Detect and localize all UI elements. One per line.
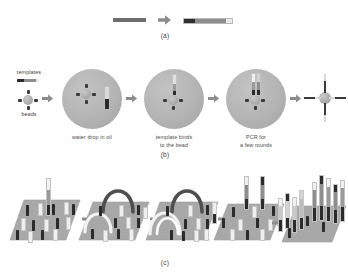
templates-legend-icon	[17, 79, 39, 82]
amplified-strand-b-icon	[256, 73, 261, 96]
tall-strand-light-icon	[260, 176, 265, 210]
panel-b-arrow-4-icon	[290, 93, 302, 104]
templates-label: templates	[3, 69, 55, 75]
caption-water-drop-in-oil: water drop in oil	[52, 134, 132, 142]
caption-pcr-rounds: PCR for a few rounds	[216, 134, 296, 150]
bead-in-droplet	[76, 84, 96, 104]
figure-root: (a) templates beads	[0, 0, 348, 279]
panel-b-arrow-3-icon	[208, 93, 220, 104]
free-template-icon	[104, 86, 110, 110]
clonal-bead-product	[304, 74, 346, 122]
process-arrow-icon	[158, 14, 172, 26]
slide-clonal-clusters	[272, 166, 348, 254]
panel-a-label: (a)	[150, 32, 180, 39]
panel-b-arrow-1-icon	[42, 93, 54, 104]
panel-b-arrow-2-icon	[126, 93, 138, 104]
adapter-ligated-template-icon	[183, 18, 233, 25]
panel-b-label: (b)	[150, 151, 180, 158]
beads-legend-icon	[18, 90, 38, 110]
panel-c-label: (c)	[150, 259, 180, 266]
caption-template-binds: template binds to the bead	[134, 134, 214, 150]
bound-template-strand-icon	[172, 74, 177, 96]
tall-strand-dark-icon	[244, 176, 249, 210]
beads-label: beads	[3, 111, 55, 117]
single-strand-template-icon	[113, 18, 146, 22]
free-template-strand-icon	[46, 178, 51, 216]
